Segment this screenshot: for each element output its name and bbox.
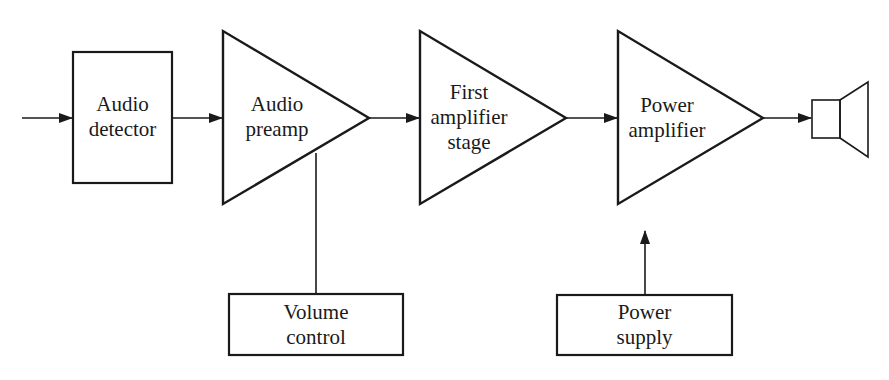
label-line: stage [424, 130, 514, 155]
label-line: Audio [232, 92, 322, 117]
label-line: supply [557, 325, 732, 350]
volume-control-label: Volume control [229, 300, 403, 350]
label-line: preamp [232, 117, 322, 142]
label-line: amplifier [424, 105, 514, 130]
label-line: Power [622, 93, 712, 118]
label-line: Audio [73, 92, 172, 117]
label-line: detector [73, 117, 172, 142]
first-amplifier-stage-label: First amplifier stage [424, 80, 514, 155]
audio-preamp-label: Audio preamp [232, 92, 322, 142]
audio-detector-label: Audio detector [73, 92, 172, 142]
label-line: amplifier [622, 118, 712, 143]
power-supply-label: Power supply [557, 300, 732, 350]
power-amplifier-label: Power amplifier [622, 93, 712, 143]
label-line: First [424, 80, 514, 105]
label-line: Volume [229, 300, 403, 325]
block-diagram [0, 0, 889, 380]
label-line: Power [557, 300, 732, 325]
speaker-icon [812, 82, 868, 157]
label-line: control [229, 325, 403, 350]
